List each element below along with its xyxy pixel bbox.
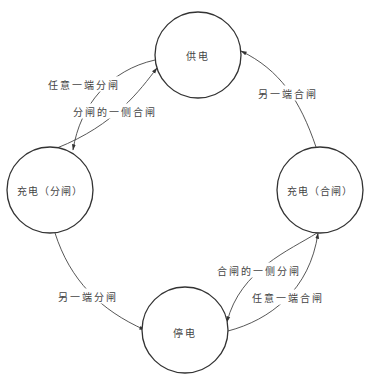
- node-label-charging-open: 充电（分闸）: [17, 183, 83, 198]
- node-label-outage: 停电: [173, 325, 197, 340]
- edge-charging-open-to-outage: [55, 233, 145, 330]
- edge-label-other-end-open: 另一端分闸: [57, 289, 119, 304]
- node-label-supply: 供电: [186, 48, 210, 63]
- edge-label-any-end-open: 任意一端分闸: [47, 77, 121, 92]
- edge-outage-to-charging-closed: [228, 233, 318, 331]
- edge-label-other-end-close: 另一端合闸: [257, 86, 319, 101]
- edge-label-any-end-close: 任意一端合闸: [251, 290, 325, 305]
- edge-label-open-side-close: 分闸的一侧合闸: [72, 104, 158, 119]
- edge-label-closed-side-open: 合闸的一侧分闸: [216, 263, 302, 278]
- edge-charging-closed-to-outage: [227, 233, 317, 322]
- node-label-charging-closed: 充电（合闸）: [287, 183, 353, 198]
